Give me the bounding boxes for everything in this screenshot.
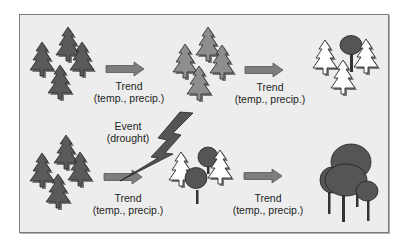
trend-label-top-2: Trend (temp., precip.) (235, 81, 306, 105)
transition-stand-top (313, 36, 380, 97)
event-label: Event (drought) (107, 120, 150, 144)
diagram-artwork (0, 0, 406, 245)
trend-label-bottom-1: Trend (temp., precip.) (93, 192, 164, 216)
trend-label-top-1: Trend (temp., precip.) (94, 80, 165, 104)
trend-arrow-icon (245, 63, 283, 77)
trend-label-line1: Trend (235, 81, 306, 93)
event-label-line2: (drought) (107, 132, 150, 144)
trend-label-line1: Trend (93, 192, 164, 204)
trend-label-line2: (temp., precip.) (93, 204, 164, 216)
medium-conifer-stand-top (173, 27, 236, 102)
trend-label-line2: (temp., precip.) (235, 93, 306, 105)
dark-conifer-stand-bottom (30, 135, 94, 210)
trend-label-bottom-2: Trend (temp., precip.) (233, 192, 304, 216)
trend-arrow-icon (244, 169, 282, 183)
dark-conifer-stand-top (30, 27, 96, 101)
trend-label-line2: (temp., precip.) (94, 92, 165, 104)
mixed-stand-bottom (169, 147, 234, 204)
trend-label-line2: (temp., precip.) (233, 204, 304, 216)
trend-label-line1: Trend (233, 192, 304, 204)
broadleaf-stand-bottom (320, 144, 378, 222)
trend-label-line1: Trend (94, 80, 165, 92)
trend-arrow-icon (106, 62, 144, 76)
event-label-line1: Event (107, 120, 150, 132)
